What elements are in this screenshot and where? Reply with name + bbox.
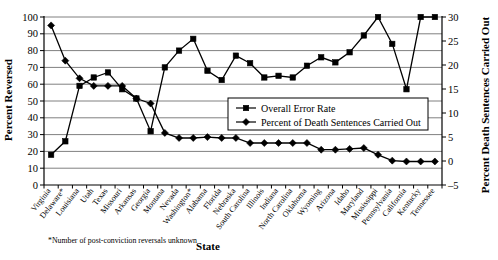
y-tick-label: 20: [28, 146, 39, 157]
data-point: [233, 53, 238, 58]
data-point: [275, 140, 282, 147]
data-point: [191, 36, 196, 41]
data-point: [361, 33, 366, 38]
data-point: [63, 139, 68, 144]
data-point: [389, 157, 396, 164]
data-point: [332, 146, 339, 153]
data-point: [404, 87, 409, 92]
data-point: [303, 140, 310, 147]
data-series: [48, 14, 439, 165]
data-point: [161, 129, 168, 136]
data-point: [276, 73, 281, 78]
data-point: [318, 55, 323, 60]
chart-legend: Overall Error RatePercent of Death Sente…: [228, 98, 428, 130]
data-point: [432, 14, 437, 19]
data-point: [176, 48, 181, 53]
data-point: [77, 83, 82, 88]
data-point: [333, 60, 338, 65]
data-point: [417, 158, 424, 165]
data-point: [304, 63, 309, 68]
data-point: [218, 134, 225, 141]
legend-marker: [243, 105, 248, 110]
data-point: [219, 77, 224, 82]
series-line: [51, 25, 435, 161]
data-point: [262, 75, 267, 80]
legend-label: Percent of Death Sentences Carried Out: [261, 117, 421, 128]
data-point: [261, 140, 268, 147]
chart-footnote: *Number of post-conviction reversals unk…: [48, 236, 197, 245]
data-point: [375, 151, 382, 158]
data-point: [403, 158, 410, 165]
data-point: [48, 152, 53, 157]
x-axis-title: State: [196, 240, 220, 252]
y-axis-ticks: 0102030405060708090100: [22, 12, 44, 191]
y-axis-title: Percent Reversed: [2, 59, 14, 141]
y2-tick-label: 20: [448, 60, 459, 71]
y-tick-label: 100: [22, 12, 38, 23]
y-tick-label: 0: [33, 180, 38, 191]
legend-label: Overall Error Rate: [261, 103, 336, 114]
data-point: [375, 14, 380, 19]
data-point: [418, 14, 423, 19]
y-tick-label: 80: [28, 45, 39, 56]
data-point: [148, 129, 153, 134]
gridlines: [44, 17, 442, 168]
data-point: [360, 145, 367, 152]
data-point: [347, 50, 352, 55]
y-tick-label: 30: [28, 129, 39, 140]
data-point: [247, 140, 254, 147]
y-tick-label: 40: [28, 112, 39, 123]
y2-tick-label: 0: [448, 156, 453, 167]
data-point: [105, 70, 110, 75]
y-tick-label: 60: [28, 79, 39, 90]
data-point: [290, 75, 295, 80]
data-point: [162, 65, 167, 70]
data-point: [91, 75, 96, 80]
data-point: [190, 134, 197, 141]
y2-tick-label: 15: [448, 84, 459, 95]
chart-container: 0102030405060708090100 –5051015202530 Vi…: [0, 0, 498, 260]
y2-tick-label: 25: [448, 36, 459, 47]
data-point: [289, 140, 296, 147]
y-tick-label: 50: [28, 96, 39, 107]
y-tick-label: 70: [28, 62, 39, 73]
x-axis-category-labels: VirginiaDelaware*LouisianaUtahTexasMisso…: [29, 186, 437, 231]
y-tick-label: 10: [28, 163, 39, 174]
y2-tick-label: 5: [448, 132, 453, 143]
series-death-sentences-carried-out: [48, 22, 439, 165]
data-point: [104, 82, 111, 89]
data-point: [232, 134, 239, 141]
data-point: [176, 134, 183, 141]
y2-tick-label: –5: [447, 180, 459, 191]
y2-tick-label: 10: [448, 108, 459, 119]
data-point: [318, 146, 325, 153]
y2-axis-title: Percent Death Sentences Carried Out: [479, 16, 491, 193]
data-point: [90, 82, 97, 89]
y-tick-label: 90: [28, 28, 39, 39]
data-point: [390, 41, 395, 46]
y2-tick-label: 30: [448, 12, 459, 23]
chart-svg: 0102030405060708090100 –5051015202530 Vi…: [0, 0, 498, 260]
y2-axis-ticks: –5051015202530: [442, 12, 459, 191]
data-point: [431, 158, 438, 165]
data-point: [205, 68, 210, 73]
data-point: [247, 61, 252, 66]
data-point: [48, 22, 55, 29]
